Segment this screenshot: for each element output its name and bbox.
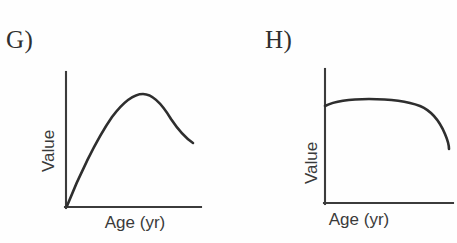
panel-h: H) Age (yr) Value	[229, 0, 457, 243]
curve-h	[325, 99, 449, 149]
plot-area-g	[0, 0, 228, 243]
x-axis-label-g: Age (yr)	[60, 214, 210, 231]
curve-g	[67, 94, 193, 206]
plot-area-h	[229, 0, 457, 243]
y-axis-label-g: Value	[40, 130, 57, 172]
x-axis-label-h: Age (yr)	[259, 211, 457, 228]
figure-container: G) Age (yr) Value H) Age (yr) Value	[0, 0, 457, 243]
y-axis-label-h: Value	[303, 142, 320, 184]
panel-g: G) Age (yr) Value	[0, 0, 228, 243]
